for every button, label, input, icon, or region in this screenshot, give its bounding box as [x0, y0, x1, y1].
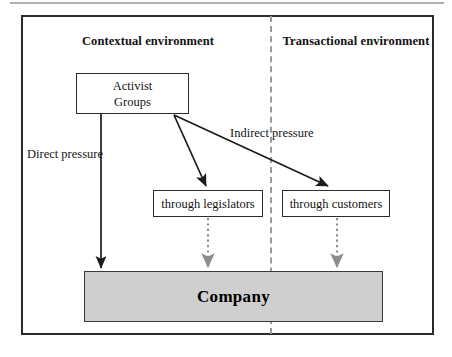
- environment-label-contextual: Contextual environment: [68, 34, 228, 49]
- environment-label-transactional: Transactional environment: [282, 34, 430, 49]
- diagram-canvas: Contextual environment Transactional env…: [0, 0, 452, 357]
- top-rule-divider: [10, 2, 444, 4]
- node-activist-groups-line2: Groups: [113, 94, 153, 110]
- node-activist-groups-line1: Activist: [113, 78, 153, 94]
- node-activist-groups: Activist Groups: [76, 73, 189, 114]
- node-company: Company: [84, 271, 383, 322]
- edge-label-direct-pressure: Direct pressure: [27, 147, 103, 162]
- node-through-legislators: through legislators: [153, 190, 263, 217]
- node-through-customers: through customers: [282, 190, 390, 217]
- edge-label-indirect-pressure: Indirect pressure: [230, 126, 314, 141]
